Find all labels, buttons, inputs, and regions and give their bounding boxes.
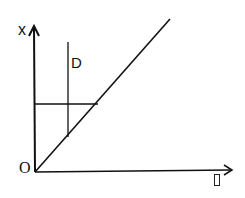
origin-label: O xyxy=(19,160,31,176)
diagram-canvas xyxy=(0,0,245,198)
x-axis-label-box-icon xyxy=(214,174,220,186)
diagonal-line xyxy=(35,19,170,172)
x-axis xyxy=(35,170,231,172)
y-axis xyxy=(34,28,35,172)
y-axis-label: x xyxy=(18,22,26,38)
line-d-label: D xyxy=(71,55,82,70)
